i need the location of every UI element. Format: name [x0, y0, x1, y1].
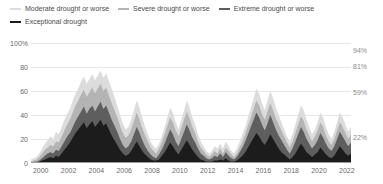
- y-axis-tick-label: 100%: [10, 40, 28, 47]
- legend-item-label: Severe drought or worse: [133, 4, 210, 14]
- end-value-label: 59%: [353, 89, 367, 96]
- x-axis-tick-label: 2004: [89, 166, 105, 175]
- series-layers: [31, 43, 351, 163]
- drought-area-chart: Moderate drought or worseSevere drought …: [0, 0, 383, 184]
- legend-item[interactable]: Severe drought or worse: [118, 4, 210, 14]
- x-axis-tick-label: 2020: [311, 166, 327, 175]
- x-axis-baseline: [31, 162, 351, 163]
- legend-row: Moderate drought or worseSevere drought …: [10, 2, 380, 15]
- end-value-label: 94%: [353, 47, 367, 54]
- legend-line-icon: [118, 8, 129, 10]
- end-value-label: 81%: [353, 62, 367, 69]
- x-axis-tick-label: 2010: [172, 166, 188, 175]
- x-axis-tick-label: 2012: [200, 166, 216, 175]
- x-axis-tick-label: 2006: [116, 166, 132, 175]
- chart-legend: Moderate drought or worseSevere drought …: [10, 2, 380, 28]
- legend-item[interactable]: Exceptional drought: [10, 17, 87, 27]
- x-axis: 2000200220042006200820102012201420162018…: [31, 166, 351, 180]
- x-axis-tick-label: 2022: [339, 166, 355, 175]
- y-axis-tick-label: 40: [20, 112, 28, 119]
- end-value-label: 22%: [353, 133, 367, 140]
- y-axis-tick-label: 60: [20, 88, 28, 95]
- x-axis-tick-label: 2018: [283, 166, 299, 175]
- y-axis: 100%806040200: [0, 43, 28, 163]
- legend-line-icon: [10, 21, 21, 23]
- legend-line-icon: [10, 8, 21, 10]
- legend-line-icon: [219, 8, 230, 10]
- legend-row: Exceptional drought: [10, 15, 380, 28]
- legend-item-label: Extreme drought or worse: [234, 4, 315, 14]
- end-value-labels: 94%81%59%22%: [353, 43, 383, 163]
- y-axis-tick-label: 80: [20, 64, 28, 71]
- legend-item[interactable]: Moderate drought or worse: [10, 4, 109, 14]
- x-axis-tick-label: 2002: [61, 166, 77, 175]
- x-axis-tick-label: 2014: [228, 166, 244, 175]
- legend-item-label: Exceptional drought: [25, 17, 87, 27]
- legend-item-label: Moderate drought or worse: [25, 4, 109, 14]
- x-axis-tick-label: 2000: [33, 166, 49, 175]
- y-axis-tick-label: 0: [24, 160, 28, 167]
- plot-area: [31, 43, 351, 163]
- x-axis-tick-label: 2008: [144, 166, 160, 175]
- legend-item[interactable]: Extreme drought or worse: [219, 4, 315, 14]
- y-axis-tick-label: 20: [20, 136, 28, 143]
- x-axis-tick-label: 2016: [256, 166, 272, 175]
